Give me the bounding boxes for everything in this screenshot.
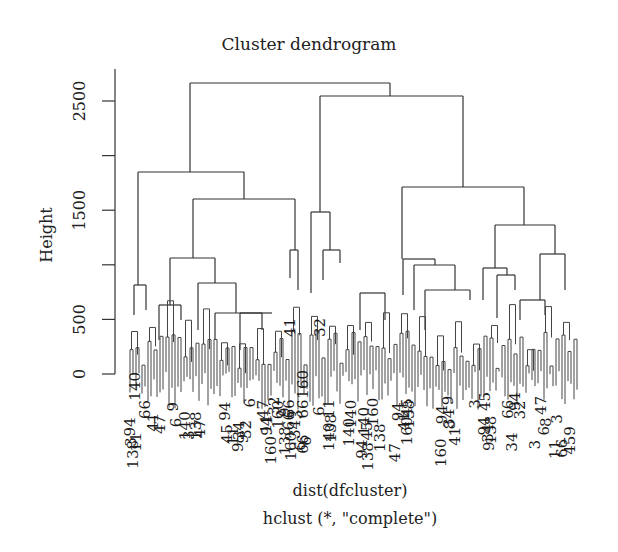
- leaf-pair: [256, 360, 259, 381]
- x-axis-label: dist(dfcluster): [293, 481, 408, 500]
- leaf-pair: [202, 344, 205, 384]
- leaf-pair: [166, 337, 169, 408]
- leaf-label: 47: [151, 415, 169, 434]
- leaf-pair: [550, 366, 553, 386]
- leaf-label: 9: [234, 434, 252, 444]
- leaf-label: 160: [398, 417, 416, 446]
- leaf-merge: [366, 322, 372, 341]
- leaf-pair: [358, 342, 361, 402]
- leaf-pair: [328, 339, 331, 403]
- leaf-merge: [132, 332, 138, 355]
- leaf-label: 41: [446, 427, 464, 446]
- leaf-pair: [526, 366, 529, 393]
- y-axis-label: Height: [37, 207, 56, 263]
- leaf-merge: [348, 326, 354, 355]
- leaf-pair: [172, 335, 175, 408]
- leaf-pair: [208, 340, 211, 406]
- leaf-merge: [402, 314, 408, 339]
- leaf-merge: [204, 309, 210, 349]
- dendrogram-chart: Cluster dendrogram 050015002500 Height 1…: [0, 0, 618, 552]
- leaf-pair: [370, 346, 373, 389]
- leaf-pair: [472, 365, 475, 399]
- leaf-label: 41: [281, 318, 299, 337]
- leaf-pair: [406, 331, 409, 394]
- leaf-pair: [430, 357, 433, 409]
- leaf-merge: [564, 322, 570, 340]
- leaf-pair: [574, 339, 577, 399]
- leaf-pair: [394, 344, 397, 405]
- chart-title: Cluster dendrogram: [222, 34, 397, 54]
- y-tick-label: 2500: [70, 81, 89, 122]
- leaf-pair: [520, 337, 523, 387]
- leaf-pair: [214, 339, 217, 394]
- leaf-pair: [154, 350, 157, 397]
- method-sublabel: hclust (*, "complete"): [263, 509, 437, 528]
- leaf-pair: [376, 347, 379, 401]
- leaf-label: 138: [276, 427, 294, 456]
- leaf-pair: [316, 331, 319, 398]
- leaf-pair: [196, 343, 199, 401]
- leaf-pair: [418, 351, 421, 387]
- leaf-pair: [340, 363, 343, 404]
- leaf-merge: [510, 305, 516, 345]
- leaf-label: 9: [229, 442, 247, 452]
- leaf-label: 3: [466, 399, 484, 409]
- leaf-merge: [330, 326, 336, 344]
- leaf-pair: [538, 350, 541, 383]
- leaf-pair: [424, 356, 427, 406]
- leaf-pair: [508, 339, 511, 399]
- leaf-label: 140: [126, 372, 144, 401]
- leaf-label: 6: [167, 418, 185, 428]
- leaf-pair: [178, 338, 181, 392]
- leaf-label: 138: [187, 411, 205, 440]
- leaf-pair: [460, 356, 463, 400]
- leaf-label: 66: [499, 400, 517, 419]
- leaf-pair: [232, 346, 235, 397]
- leaf-label: 32: [265, 396, 283, 415]
- leaf-label: 47: [532, 396, 550, 415]
- leaf-label: 9: [439, 396, 457, 406]
- leaf-merge: [474, 344, 480, 370]
- leaf-pair: [400, 333, 403, 377]
- leaf-label: 94: [216, 402, 234, 421]
- leaf-pair: [238, 368, 241, 387]
- leaf-label: 11: [257, 414, 275, 433]
- y-tick-label: 1500: [70, 190, 89, 231]
- leaf-pair: [322, 358, 325, 405]
- y-tick-label: 0: [70, 369, 89, 379]
- leaf-label: 94: [433, 405, 451, 424]
- leaf-pair: [268, 364, 271, 399]
- dendrogram-tree: [134, 83, 565, 350]
- leaf-label: 6: [241, 398, 259, 408]
- leaf-pair: [148, 341, 151, 401]
- leaf-label: 11: [127, 432, 145, 451]
- leaf-pair: [274, 352, 277, 383]
- leaf-pair: [484, 336, 487, 397]
- leaf-label: 8: [537, 417, 555, 427]
- leaf-merge: [186, 320, 192, 362]
- leaf-pair: [364, 337, 367, 395]
- leaf-label: 66: [294, 435, 312, 454]
- leaf-label: 9: [561, 426, 579, 436]
- leaf-label: 160: [294, 370, 312, 399]
- y-tick-label: 500: [70, 304, 89, 335]
- leaf-pair: [388, 359, 391, 396]
- leaf-label: 34: [503, 433, 521, 452]
- leaf-pair: [160, 336, 163, 392]
- leaf-pair: [490, 338, 493, 391]
- leaf-label: 34: [479, 424, 497, 443]
- leaf-pair: [502, 346, 505, 397]
- leaf-pair: [544, 332, 547, 399]
- leaf-pair: [346, 350, 349, 381]
- leaf-label: 94: [353, 440, 371, 459]
- leaf-pair: [436, 365, 439, 389]
- leaf-pair: [250, 348, 253, 381]
- leaf-pair: [412, 345, 415, 406]
- leaf-merge: [150, 327, 156, 346]
- leaf-pair: [496, 368, 499, 390]
- leaf-pair: [562, 335, 565, 404]
- leaf-label: 3: [526, 440, 544, 450]
- leaf-pair: [568, 351, 571, 383]
- leaf-pair: [466, 361, 469, 390]
- leaf-merge: [168, 301, 174, 342]
